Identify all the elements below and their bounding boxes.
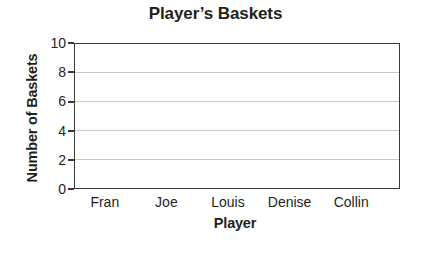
plot-area [74,43,400,189]
x-axis-tick-labels: Fran Joe Louis Denise Collin [74,194,382,212]
bar-series-layer [75,44,399,188]
y-tick-label-10: 10 [38,36,66,50]
chart-figure: Player’s Baskets Number of Baskets 10 8 … [0,0,431,274]
x-tick-label-collin: Collin [320,194,382,212]
y-tick-label-8: 8 [38,65,66,79]
y-tick-label-6: 6 [38,94,66,108]
y-tick-label-2: 2 [38,153,66,167]
x-axis-title: Player [74,215,396,231]
y-axis-tick-labels: 10 8 6 4 2 0 [34,0,66,274]
x-tick-label-fran: Fran [74,194,136,212]
y-tick-label-0: 0 [38,182,66,196]
y-tick-label-4: 4 [38,124,66,138]
x-tick-label-joe: Joe [136,194,198,212]
x-tick-label-louis: Louis [197,194,259,212]
x-tick-label-denise: Denise [259,194,321,212]
